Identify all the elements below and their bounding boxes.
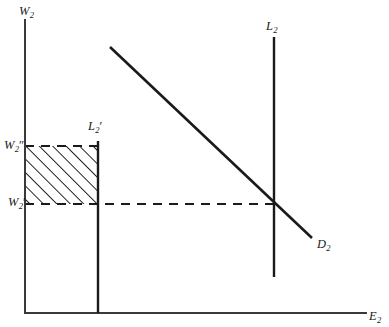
labor-demand-label: D2 xyxy=(317,238,331,252)
labor-supply-label: L2 xyxy=(266,20,278,34)
hatched-area xyxy=(25,146,98,204)
wage-upper-label: W2″ xyxy=(4,139,24,153)
wage-lower-label: W2′ xyxy=(8,196,26,210)
economics-diagram: W2 W2″ W2′ L2′ L2 D2 E2 xyxy=(0,0,389,327)
diagram-canvas xyxy=(0,0,389,327)
labor-demand-line xyxy=(110,47,312,238)
x-axis-label: E2 xyxy=(369,310,381,324)
labor-supply-restricted-label: L2′ xyxy=(88,120,102,134)
y-axis-label: W2 xyxy=(19,5,34,19)
